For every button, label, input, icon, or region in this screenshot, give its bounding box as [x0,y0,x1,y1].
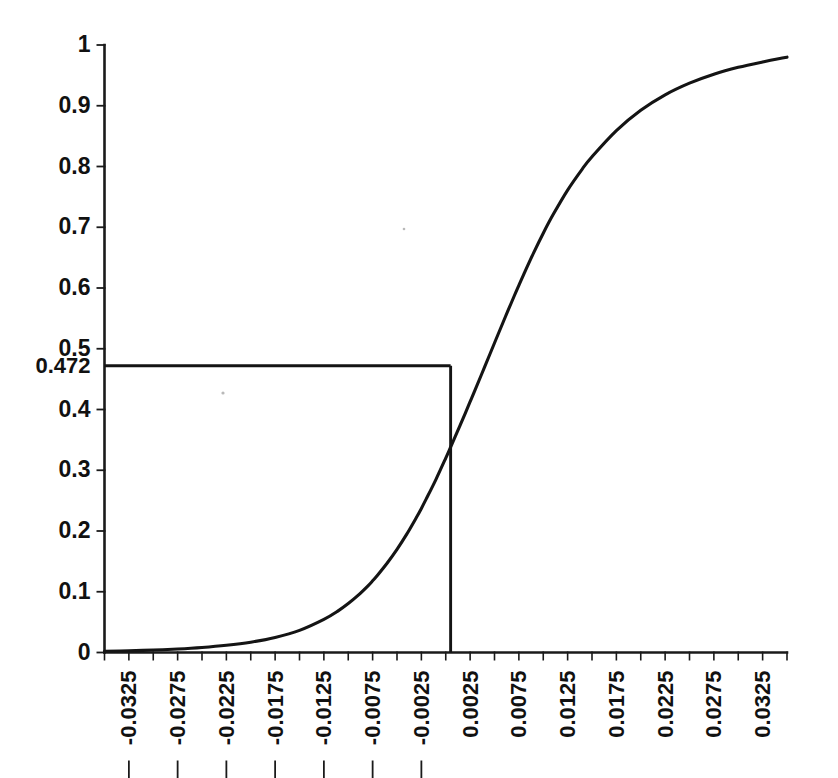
y-axis-tick-label: 0.6 [59,274,91,300]
x-axis-tick-label: -0.0075 [360,671,385,746]
x-axis-tick-label: -0.0125 [311,671,336,746]
y-axis-tick-label: 0.5 [59,335,91,361]
x-axis-tick-label: 0.0125 [555,671,580,738]
x-axis-tick-label: 0.0325 [750,671,775,738]
y-axis-tick-label: 0.2 [59,517,91,543]
x-axis-tick-label: -0.0025 [409,671,434,746]
chart-background [0,0,838,778]
chart-figure: 00.10.20.30.40.4720.50.60.70.80.91 -0.03… [0,0,838,778]
sigmoid-chart-svg: 00.10.20.30.40.4720.50.60.70.80.91 -0.03… [0,0,838,778]
y-axis-tick-label: 0.9 [59,92,91,118]
y-axis-tick-label: 0.3 [59,456,91,482]
y-axis-tick-label: 0.1 [59,578,91,604]
y-axis-tick-label: 0.7 [59,213,91,239]
x-axis-tick-label: 0.0175 [604,671,629,738]
y-axis-tick-label: 0 [78,639,91,665]
x-axis-tick-label: -0.0275 [165,671,190,746]
x-axis-tick-label: -0.0175 [263,671,288,746]
scan-speck [403,228,406,231]
x-axis-tick-label: 0.0025 [458,671,483,738]
y-axis-tick-label: 0.4 [59,396,91,422]
x-axis-tick-label: -0.0325 [116,671,141,746]
x-axis-tick-label: 0.0275 [701,671,726,738]
y-axis-tick-label: 0.8 [59,153,91,179]
x-axis-tick-label: 0.0075 [506,671,531,738]
x-axis-tick-label: -0.0225 [214,671,239,746]
scan-speck [221,391,224,394]
x-axis-tick-label: 0.0225 [653,671,678,738]
y-axis-tick-label: 1 [78,31,91,57]
